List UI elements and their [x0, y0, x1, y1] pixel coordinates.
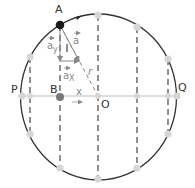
- label-r: r: [88, 66, 93, 77]
- label-q: Q: [178, 81, 187, 94]
- circular-motion-diagram: A B O P Q a a y a X r x: [0, 0, 195, 188]
- label-o: O: [101, 98, 110, 111]
- label-a-point: A: [55, 3, 63, 16]
- label-ay-sub: y: [53, 45, 58, 54]
- projection-points: [18, 11, 180, 182]
- label-b: B: [50, 83, 58, 96]
- label-ax-sub: X: [69, 74, 75, 83]
- label-accel: a: [73, 35, 79, 46]
- label-p: P: [11, 83, 18, 96]
- label-x: x: [76, 86, 82, 97]
- point-a: [56, 21, 65, 30]
